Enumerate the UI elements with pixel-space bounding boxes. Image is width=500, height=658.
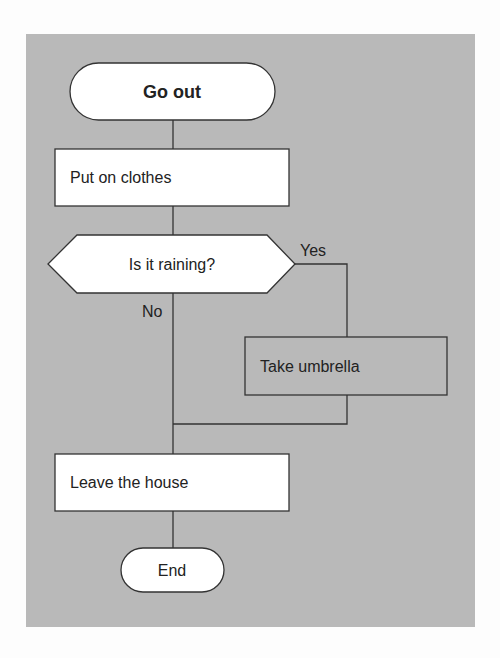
- connector-umbrella-merge: [173, 395, 347, 424]
- node-umbrella: Take umbrella: [245, 337, 447, 395]
- node-decision: Is it raining?: [48, 235, 295, 293]
- node-decision-label: Is it raining?: [129, 256, 215, 273]
- node-leave-label: Leave the house: [70, 474, 188, 491]
- node-end-label: End: [158, 562, 186, 579]
- node-clothes: Put on clothes: [55, 149, 289, 206]
- edge-no-label: No: [142, 303, 163, 320]
- node-start: Go out: [70, 63, 275, 120]
- node-end: End: [121, 548, 224, 592]
- flowchart: Go out Put on clothes Is it raining? Yes…: [0, 0, 500, 658]
- edge-yes-label: Yes: [300, 242, 326, 259]
- node-clothes-label: Put on clothes: [70, 169, 171, 186]
- node-start-label: Go out: [143, 82, 201, 102]
- node-leave: Leave the house: [55, 454, 289, 511]
- connector-yes-branch: [295, 264, 347, 337]
- node-umbrella-label: Take umbrella: [260, 358, 360, 375]
